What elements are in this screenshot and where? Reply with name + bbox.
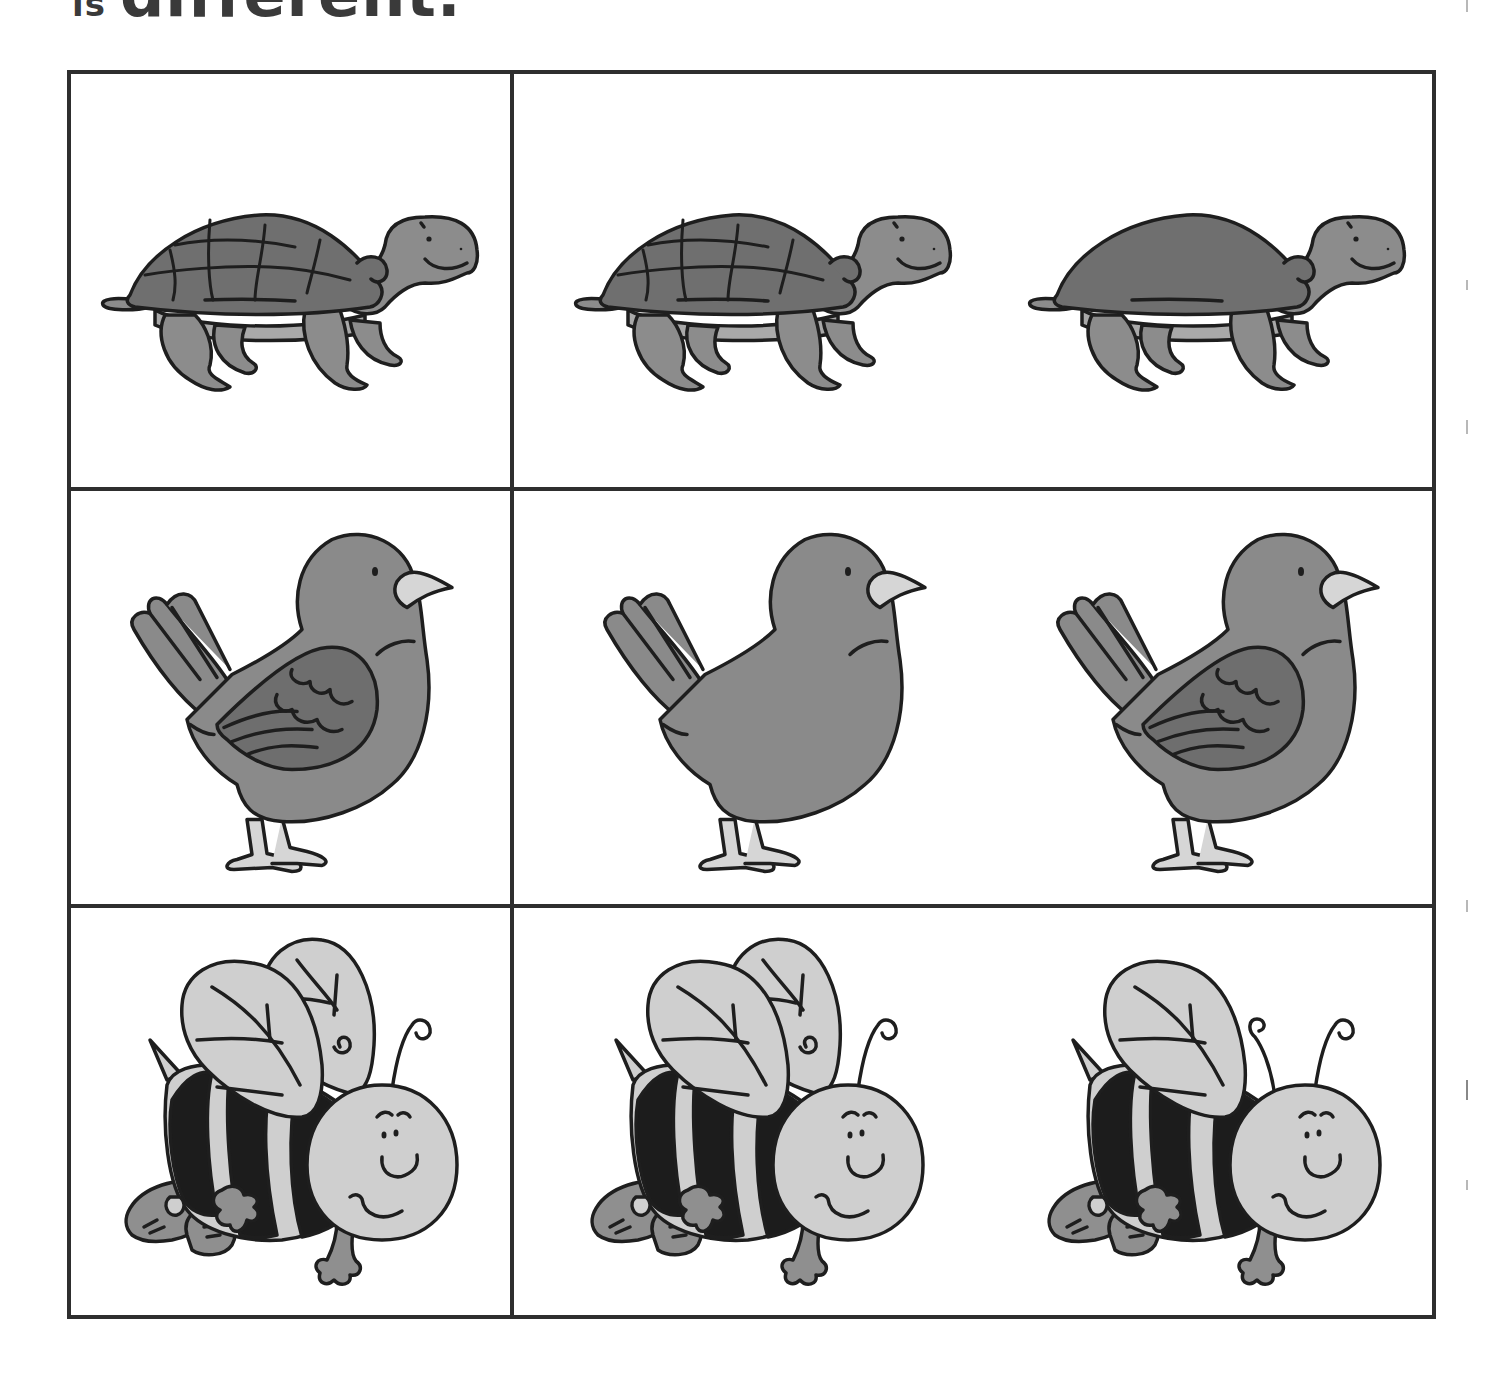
turtle-option-1[interactable] xyxy=(568,190,958,420)
bee-option-2[interactable] xyxy=(1035,935,1395,1295)
scan-artifact xyxy=(1466,900,1468,912)
turtle-patterned-icon xyxy=(568,190,958,420)
bird-with-wing-icon xyxy=(1048,522,1388,882)
scan-artifact xyxy=(1466,1180,1468,1190)
grid-divider-row-1 xyxy=(71,487,1432,491)
scan-artifact xyxy=(1466,420,1468,434)
grid-divider-row-2 xyxy=(71,904,1432,908)
bee-two-wings-icon xyxy=(578,935,938,1295)
bee-option-1[interactable] xyxy=(578,935,938,1295)
scan-artifact xyxy=(1466,0,1468,12)
worksheet-heading: isdifferent. xyxy=(72,0,462,39)
bird-no-wing-icon xyxy=(595,522,935,882)
turtle-option-2[interactable] xyxy=(1022,190,1412,420)
turtle-reference[interactable] xyxy=(95,190,485,420)
scan-artifact xyxy=(1466,1080,1468,1100)
heading-prefix: is xyxy=(72,0,106,24)
bird-reference[interactable] xyxy=(122,522,462,882)
bird-option-2[interactable] xyxy=(1048,522,1388,882)
bee-one-wing-icon xyxy=(1035,935,1395,1295)
turtle-patterned-icon xyxy=(95,190,485,420)
turtle-plain-shell-icon xyxy=(1022,190,1412,420)
scan-artifact xyxy=(1466,280,1468,290)
bee-two-wings-icon xyxy=(112,935,472,1295)
grid-divider-vertical xyxy=(510,74,514,1315)
bee-reference[interactable] xyxy=(112,935,472,1295)
bird-option-1[interactable] xyxy=(595,522,935,882)
bird-with-wing-icon xyxy=(122,522,462,882)
heading-text: different. xyxy=(120,0,462,31)
